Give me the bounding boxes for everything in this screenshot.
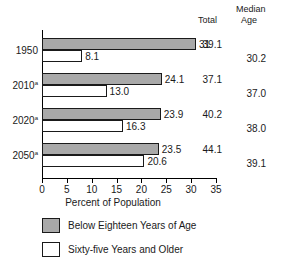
x-axis-tick-label: 25 — [156, 184, 176, 195]
category-label-1950: 1950 — [0, 45, 38, 56]
x-axis-tick — [117, 178, 118, 183]
bar-over65-2050 — [42, 155, 144, 167]
x-axis-tick — [191, 178, 192, 183]
category-label-2010: 2010a — [0, 80, 38, 91]
bar-value-label: 16.3 — [126, 121, 145, 132]
total-value-2050: 44.1 — [196, 144, 222, 155]
x-axis-tick-label: 30 — [181, 184, 201, 195]
median-age-value-1950: 30.2 — [240, 53, 266, 64]
x-axis-tick-label: 5 — [57, 184, 77, 195]
x-axis-tick — [92, 178, 93, 183]
x-axis-tick — [216, 178, 217, 183]
population-age-chart: Median Total Age 05101520253035 318.124.… — [0, 0, 288, 274]
x-axis-tick-label: 20 — [131, 184, 151, 195]
x-axis-tick — [166, 178, 167, 183]
bar-under18-2020 — [42, 108, 161, 120]
median-age-value-2010: 37.0 — [240, 88, 266, 99]
total-value-2010: 37.1 — [196, 74, 222, 85]
category-label-2020: 2020a — [0, 115, 38, 126]
legend-swatch-gray — [42, 218, 60, 233]
total-value-2020: 40.2 — [196, 109, 222, 120]
bar-value-label: 20.6 — [147, 156, 166, 167]
bar-under18-2050 — [42, 143, 159, 155]
x-axis-title: Percent of Population — [0, 197, 226, 208]
median-age-value-2020: 38.0 — [240, 123, 266, 134]
plot-area: 05101520253035 318.124.113.023.916.323.5… — [0, 0, 288, 200]
bar-value-label: 24.1 — [165, 74, 184, 85]
bar-over65-2010 — [42, 85, 107, 97]
bar-under18-1950 — [42, 38, 196, 50]
bar-over65-2020 — [42, 120, 123, 132]
bar-value-label: 8.1 — [85, 51, 99, 62]
bar-value-label: 23.5 — [162, 144, 181, 155]
median-age-value-2050: 39.1 — [240, 158, 266, 169]
total-value-1950: 39.1 — [196, 39, 222, 50]
bar-over65-1950 — [42, 50, 82, 62]
bar-value-label: 13.0 — [110, 86, 129, 97]
bar-value-label: 23.9 — [164, 109, 183, 120]
x-axis-tick-label: 15 — [107, 184, 127, 195]
x-axis-tick-label: 10 — [82, 184, 102, 195]
legend-swatch-white — [42, 242, 60, 257]
category-label-2050: 2050a — [0, 150, 38, 161]
x-axis-tick — [42, 178, 43, 183]
x-axis-tick — [67, 178, 68, 183]
bar-under18-2010 — [42, 73, 162, 85]
x-axis-tick-label: 0 — [32, 184, 52, 195]
legend-label: Below Eighteen Years of Age — [68, 220, 196, 231]
x-axis-tick — [141, 178, 142, 183]
legend-label: Sixty-five Years and Older — [68, 244, 183, 255]
x-axis-tick-label: 35 — [206, 184, 226, 195]
